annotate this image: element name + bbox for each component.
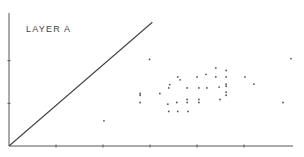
y-axis [8,13,11,146]
data-point [225,76,227,78]
reference-line [9,22,152,146]
data-point [282,102,284,104]
data-point [177,76,179,78]
data-point [225,70,227,72]
x-axis [9,145,293,148]
data-point [198,99,200,101]
data-point [225,85,227,87]
data-point [187,111,189,113]
data-point [218,86,220,88]
data-point [205,73,207,75]
data-point [225,94,227,96]
data-point [179,79,181,81]
chart-title: LAYER A [26,24,71,34]
data-point [215,76,217,78]
data-point [219,99,221,101]
data-point [169,84,171,86]
data-point [177,111,179,113]
data-point [168,87,170,89]
data-point [186,99,188,101]
data-point [198,102,200,104]
data-point [176,102,178,104]
data-point [149,58,151,60]
data-point [290,58,292,60]
data-point [139,102,141,104]
data-point [198,87,200,89]
data-point [186,102,188,104]
data-point [167,103,169,105]
data-point [206,87,208,89]
data-point [196,76,198,78]
data-point [103,120,105,122]
data-point [225,91,227,93]
data-point [168,111,170,113]
data-point [225,83,227,85]
data-point [139,93,141,95]
data-point [244,76,246,78]
data-points [103,58,292,122]
scatter-chart: LAYER A [0,0,304,157]
data-point [186,87,188,89]
data-point [253,83,255,85]
data-point [159,93,161,95]
data-point [215,67,217,69]
data-point [139,94,141,96]
